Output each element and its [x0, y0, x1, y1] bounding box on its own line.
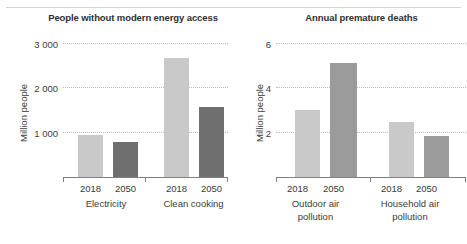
bar-household-air-pollution-2050	[424, 136, 449, 178]
panel-title-energy-access: People without modern energy access	[0, 12, 240, 23]
bar-clean-cooking-2018	[164, 58, 189, 177]
x-category-household-line1: Household air	[360, 198, 460, 211]
panel-title-premature-deaths: Annual premature deaths	[240, 12, 467, 23]
x-label-clean-cooking-2050: 2050	[184, 183, 239, 194]
y-axis-title-left: Million people	[18, 84, 29, 142]
x-tick-right-middle	[370, 177, 371, 182]
y-tick-label-6: 6	[266, 38, 271, 49]
y-tick-label-3000: 3 000	[34, 38, 58, 49]
x-category-household-air-pollution: Household air pollution	[360, 198, 460, 223]
x-tick-left-middle	[145, 177, 146, 182]
x-label-electricity-2050: 2050	[98, 183, 153, 194]
x-category-outdoor-air-pollution: Outdoor air pollution	[268, 198, 363, 223]
gridline-4: 4	[276, 87, 466, 88]
x-tick-right-end	[465, 177, 466, 182]
x-category-electricity: Electricity	[61, 198, 151, 211]
figure-root: People without modern energy access Mill…	[0, 0, 467, 244]
x-axis-line-right	[276, 177, 466, 178]
x-label-outdoor-2050: 2050	[306, 183, 361, 194]
x-label-household-2050: 2050	[399, 183, 454, 194]
bar-outdoor-air-pollution-2018	[295, 110, 320, 177]
bar-electricity-2050	[113, 142, 138, 177]
gridline-3000: 3 000	[63, 43, 228, 44]
x-category-household-line2: pollution	[360, 211, 460, 224]
chart-panel-premature-deaths: Annual premature deaths Million people 6…	[240, 0, 467, 244]
x-category-outdoor-line1: Outdoor air	[268, 198, 363, 211]
plot-area-left: 3 000 2 000 1 000	[63, 30, 228, 178]
bar-outdoor-air-pollution-2050	[330, 63, 357, 177]
x-category-clean-cooking: Clean cooking	[146, 198, 241, 211]
chart-panel-energy-access: People without modern energy access Mill…	[0, 0, 240, 244]
y-tick-label-1000: 1 000	[34, 128, 58, 139]
x-tick-left-end	[227, 177, 228, 182]
bar-household-air-pollution-2018	[389, 122, 414, 177]
bar-electricity-2018	[78, 135, 103, 177]
y-axis-title-right: Million people	[254, 84, 265, 142]
y-tick-label-2: 2	[266, 128, 271, 139]
gridline-6: 6	[276, 43, 466, 44]
y-tick-label-2000: 2 000	[34, 83, 58, 94]
x-tick-left-start	[63, 177, 64, 182]
gridline-2000: 2 000	[63, 87, 228, 88]
x-tick-right-start	[276, 177, 277, 182]
x-category-outdoor-line2: pollution	[268, 211, 363, 224]
y-tick-label-4: 4	[266, 83, 271, 94]
plot-area-right: 6 4 2	[276, 30, 466, 178]
bar-clean-cooking-2050	[199, 107, 224, 177]
